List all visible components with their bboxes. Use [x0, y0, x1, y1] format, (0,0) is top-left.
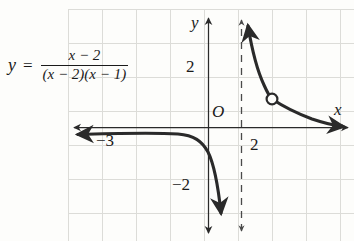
x-axis-label: x	[334, 101, 342, 118]
grid-lines	[68, 10, 354, 241]
equation-fraction: x − 2 (x − 2)(x − 1)	[41, 48, 129, 83]
equation-lhs: y	[8, 55, 23, 76]
y-axis-label: y	[191, 14, 199, 31]
x-tick-label-neg3: −3	[96, 132, 114, 149]
y-tick-label-2: 2	[186, 58, 195, 75]
function-equation: y = x − 2 (x − 2)(x − 1)	[8, 48, 128, 83]
hole-open-circle	[267, 94, 278, 105]
equals-sign: =	[23, 56, 41, 76]
origin-label: O	[212, 103, 224, 120]
fraction-denominator: (x − 2)(x − 1)	[41, 66, 129, 83]
y-tick-label-neg2: −2	[172, 176, 190, 193]
x-tick-label-2: 2	[250, 136, 259, 153]
graph-canvas	[0, 0, 354, 241]
fraction-numerator: x − 2	[64, 48, 104, 65]
rational-function-figure: y = x − 2 (x − 2)(x − 1) y x O 2 −2 −3 2	[0, 0, 354, 241]
